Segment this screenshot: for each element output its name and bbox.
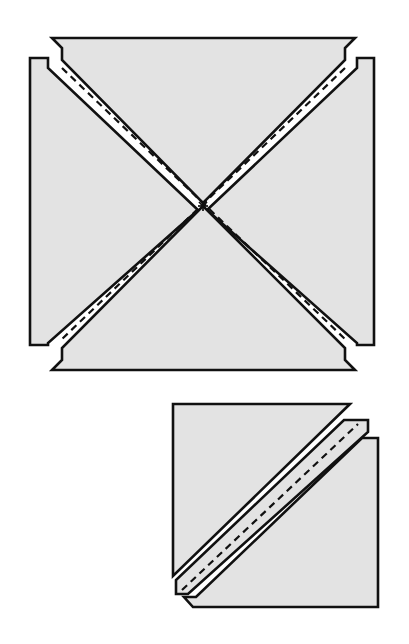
fold-diagram-canvas (0, 0, 409, 644)
lower-panel (173, 404, 378, 607)
fold-diagram-root (0, 0, 409, 644)
upper-panel (30, 38, 374, 370)
upper-center-x-mark (198, 201, 208, 211)
